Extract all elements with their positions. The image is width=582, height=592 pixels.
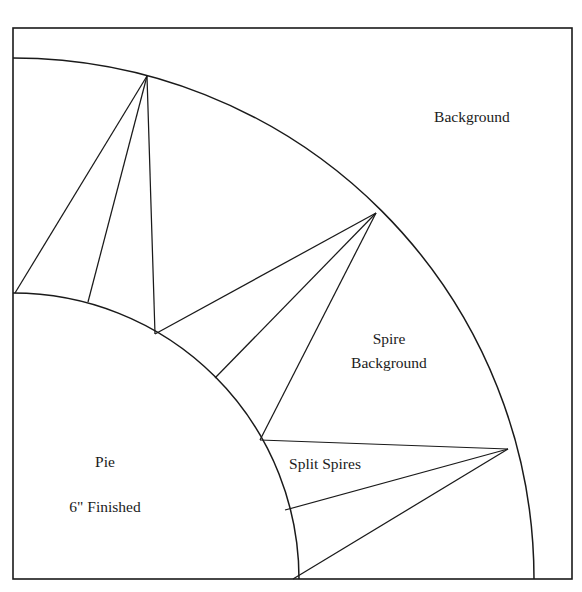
label-pie: Pie [95,453,115,470]
quilt-pattern-svg: Background Spire Background Split Spires… [0,0,582,592]
label-background: Background [434,108,510,125]
pattern-diagram-page: Background Spire Background Split Spires… [0,0,582,592]
label-spire-background-line1: Spire [373,330,406,347]
label-split-spires: Split Spires [289,455,361,472]
label-pie-size: 6" Finished [69,498,141,515]
label-spire-background-line2: Background [351,354,427,371]
